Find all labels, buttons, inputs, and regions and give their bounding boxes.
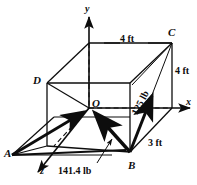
point-o-label: O xyxy=(92,98,100,109)
force-bo-label: 141.4 lb xyxy=(58,166,91,176)
box-edges-group xyxy=(47,43,172,152)
force-diagram-figure: y x z A B C D O 4 ft 4 ft 3 ft 125 lb 14… xyxy=(0,0,197,185)
z-axis-label: z xyxy=(40,166,44,176)
construction-lines-group xyxy=(47,83,89,108)
dimension-right-label: 4 ft xyxy=(175,66,189,76)
force-vector-ao xyxy=(12,112,84,155)
y-axis-label: y xyxy=(85,4,89,14)
force-vector-bo xyxy=(95,113,130,152)
x-axis-label: x xyxy=(186,97,191,107)
point-d-label: D xyxy=(33,75,41,86)
top-left-slant-edge xyxy=(47,43,89,83)
base-plane-group xyxy=(12,117,130,155)
dimension-depth-label: 3 ft xyxy=(148,138,162,148)
dimension-top-label: 4 ft xyxy=(120,34,134,44)
point-c-label: C xyxy=(168,27,175,38)
point-a-label: A xyxy=(4,148,11,159)
line-d-to-o xyxy=(47,83,89,108)
axes-group xyxy=(38,17,190,172)
line-c-to-front-corner xyxy=(132,43,172,85)
point-b-label: B xyxy=(128,160,135,171)
